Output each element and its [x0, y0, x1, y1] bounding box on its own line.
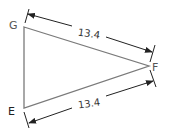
dimension-ef-label: 13.4: [77, 97, 101, 111]
dimension-line-gf-left: [28, 14, 72, 26]
extension-line-g: [25, 9, 29, 23]
vertex-label-g: G: [9, 19, 18, 32]
dimension-line-ef-left: [29, 108, 72, 123]
triangle-efg: [24, 27, 149, 108]
extension-line-f-top: [150, 45, 155, 62]
dimension-line-gf-right: [106, 37, 152, 52]
dimension-gf-label: 13.4: [77, 27, 101, 41]
dimension-line-ef-right: [106, 81, 153, 96]
vertex-label-f: F: [152, 61, 158, 74]
vertex-label-e: E: [8, 105, 15, 118]
extension-line-e: [24, 112, 29, 128]
triangle-diagram: 13.4 13.4 G F E: [0, 0, 169, 137]
